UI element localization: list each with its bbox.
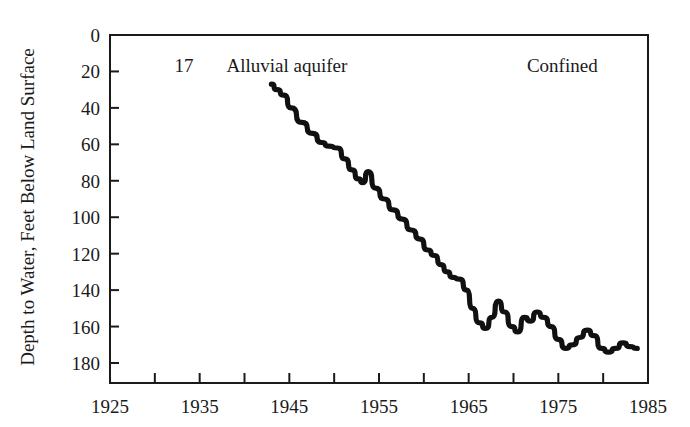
y-tick-label: 60 [81, 134, 100, 155]
data-line [271, 84, 637, 352]
aquifer-type: Alluvial aquifer [227, 55, 348, 76]
y-tick-label: 100 [72, 207, 101, 228]
y-tick-label: 180 [72, 353, 101, 374]
x-axis-ticks [155, 373, 603, 383]
y-tick-label: 20 [81, 61, 100, 82]
y-axis-tick-labels: 020406080100120140160180 [72, 25, 101, 374]
y-axis-title: Depth to Water, Feet Below Land Surface [17, 48, 38, 366]
x-tick-label: 1975 [539, 396, 577, 417]
y-tick-label: 0 [91, 25, 101, 46]
y-tick-label: 140 [72, 280, 101, 301]
x-axis-tick-labels: 1925193519451955196519751985 [91, 396, 667, 417]
data-series-group [271, 84, 637, 352]
figure-number: 17 [175, 55, 194, 76]
depth-to-water-chart: Depth to Water, Feet Below Land Surface … [0, 0, 690, 427]
x-tick-label: 1955 [360, 396, 398, 417]
y-tick-label: 80 [81, 171, 100, 192]
plot-frame [110, 35, 648, 383]
x-tick-label: 1945 [270, 396, 308, 417]
annotation-group: 17Alluvial aquiferConfined [175, 55, 599, 76]
x-tick-label: 1925 [91, 396, 129, 417]
x-tick-label: 1965 [450, 396, 488, 417]
y-axis-ticks [110, 35, 119, 363]
y-tick-label: 120 [72, 244, 101, 265]
confined-label: Confined [527, 55, 598, 76]
y-tick-label: 160 [72, 317, 101, 338]
x-tick-label: 1985 [629, 396, 667, 417]
y-tick-label: 40 [81, 98, 100, 119]
figure-container: Depth to Water, Feet Below Land Surface … [0, 0, 690, 427]
x-tick-label: 1935 [181, 396, 219, 417]
